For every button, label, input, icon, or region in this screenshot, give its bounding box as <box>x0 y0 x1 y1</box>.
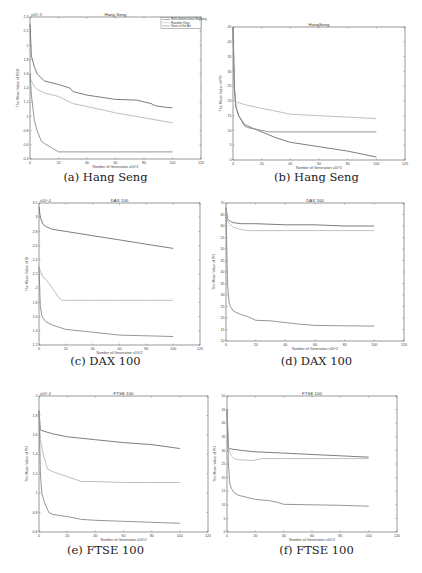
series-line <box>227 410 369 507</box>
y-tick-label: 2.4 <box>33 258 38 262</box>
legend-entry: State of the Art <box>171 24 191 28</box>
caption-a: (a) Hang Seng <box>0 170 211 184</box>
y-tick-label: 1.4 <box>24 86 29 90</box>
y-multiplier: x10^-4 <box>40 392 51 396</box>
y-tick-label: 0.6 <box>24 143 29 147</box>
y-tick-label: 1 <box>36 491 38 495</box>
y-tick-label: 0.8 <box>24 129 29 133</box>
series-line <box>39 411 180 483</box>
y-axis-label: The Mean Value of PD <box>219 75 223 111</box>
x-tick-label: 40 <box>93 534 97 538</box>
series-line <box>30 24 173 108</box>
chart-f: FTSE 10002040608010012005101520253035404… <box>211 380 422 555</box>
y-tick-label: 45 <box>222 408 226 412</box>
x-axis-label: Number of Generation x10^2 <box>292 347 338 351</box>
x-tick-label: 60 <box>114 161 118 165</box>
y-tick-label: 1.4 <box>33 329 38 333</box>
x-tick-label: 100 <box>170 347 176 351</box>
plot-area <box>233 27 405 160</box>
y-tick-label: 35 <box>221 282 225 286</box>
chart-title: DAX 100 <box>306 198 324 203</box>
y-tick-label: 2.8 <box>33 230 38 234</box>
x-tick-label: 40 <box>283 343 287 347</box>
series-line <box>227 410 369 458</box>
caption-e: (e) FTSE 100 <box>0 543 211 557</box>
x-tick-label: 120 <box>197 347 203 351</box>
y-tick-label: 10 <box>221 339 225 343</box>
y-tick-label: 20 <box>228 99 232 103</box>
panel-a: Hang Seng0204060801001200.40.60.811.21.4… <box>0 0 211 190</box>
x-tick-label: 60 <box>118 347 122 351</box>
x-axis-label: Number of Generation x10^2 <box>100 538 146 542</box>
chart-title: FTSE 100 <box>302 391 322 396</box>
caption-d: (d) DAX 100 <box>211 354 422 368</box>
chart-title: HangSeng <box>309 22 330 27</box>
x-tick-label: 100 <box>170 161 176 165</box>
plot-area <box>30 17 201 159</box>
x-tick-label: 0 <box>226 534 228 538</box>
y-tick-label: 2.2 <box>33 272 38 276</box>
x-tick-label: 40 <box>91 347 95 351</box>
y-tick-label: 0.6 <box>33 530 38 534</box>
x-tick-label: 20 <box>260 162 264 166</box>
x-tick-label: 100 <box>177 534 183 538</box>
x-tick-label: 60 <box>122 534 126 538</box>
x-tick-label: 60 <box>310 534 314 538</box>
chart-a: Hang Seng0204060801001200.40.60.811.21.4… <box>0 0 211 175</box>
series-line <box>226 208 374 226</box>
y-tick-label: 65 <box>221 213 225 217</box>
series-line <box>39 267 173 300</box>
y-tick-label: 45 <box>221 259 225 263</box>
y-tick-label: 1.2 <box>33 472 38 476</box>
series-line <box>39 411 180 524</box>
y-tick-label: 1.6 <box>24 72 29 76</box>
series-line <box>39 207 173 249</box>
legend: Multi-dimensional MappingRandom KeysStat… <box>161 17 207 28</box>
x-tick-label: 0 <box>38 534 40 538</box>
x-tick-label: 100 <box>371 343 377 347</box>
y-tick-label: 10 <box>228 129 232 133</box>
x-tick-label: 20 <box>64 347 68 351</box>
y-tick-label: 30 <box>221 293 225 297</box>
y-tick-label: 0 <box>230 158 232 162</box>
x-tick-label: 80 <box>343 343 347 347</box>
x-tick-label: 20 <box>254 343 258 347</box>
series-line <box>233 27 376 132</box>
panel-f: FTSE 10002040608010012005101520253035404… <box>211 380 422 573</box>
y-axis-label: The Mean Value of PD <box>213 446 217 482</box>
y-tick-label: 50 <box>222 394 226 398</box>
x-tick-label: 120 <box>401 343 407 347</box>
series-line <box>233 27 376 157</box>
y-tick-label: 20 <box>222 476 226 480</box>
y-tick-label: 25 <box>228 84 232 88</box>
x-tick-label: 40 <box>85 161 89 165</box>
x-tick-label: 20 <box>65 534 69 538</box>
y-tick-label: 1.6 <box>33 315 38 319</box>
y-tick-label: 40 <box>228 40 232 44</box>
chart-b: HangSeng02040608010012005101520253035404… <box>211 0 422 175</box>
y-tick-label: 35 <box>222 435 226 439</box>
x-tick-label: 0 <box>225 343 227 347</box>
y-tick-label: 2.4 <box>24 15 29 19</box>
x-tick-label: 120 <box>198 161 204 165</box>
panel-b: HangSeng02040608010012005101520253035404… <box>211 0 422 190</box>
panel-d: DAX 100020406080100120101520253035404550… <box>211 190 422 380</box>
y-multiplier: x10^-3 <box>31 13 42 17</box>
y-tick-label: 2.6 <box>33 244 38 248</box>
x-axis-label: Number of Generation x10^2 <box>289 538 335 542</box>
x-tick-label: 100 <box>366 534 372 538</box>
chart-title: FTSE 100 <box>114 391 134 396</box>
y-tick-label: 15 <box>228 114 232 118</box>
x-tick-label: 80 <box>346 162 350 166</box>
y-tick-label: 60 <box>221 224 225 228</box>
series-line <box>226 208 374 327</box>
y-tick-label: 2 <box>27 44 29 48</box>
chart-title: DAX 100 <box>111 198 129 203</box>
x-tick-label: 20 <box>253 534 257 538</box>
chart-c: DAX 1000204060801001201.21.41.61.822.22.… <box>0 190 211 365</box>
y-tick-label: 10 <box>222 503 226 507</box>
y-tick-label: 1.6 <box>33 433 38 437</box>
panel-c: DAX 1000204060801001201.21.41.61.822.22.… <box>0 190 211 380</box>
y-tick-label: 2 <box>36 286 38 290</box>
x-tick-label: 0 <box>38 347 40 351</box>
